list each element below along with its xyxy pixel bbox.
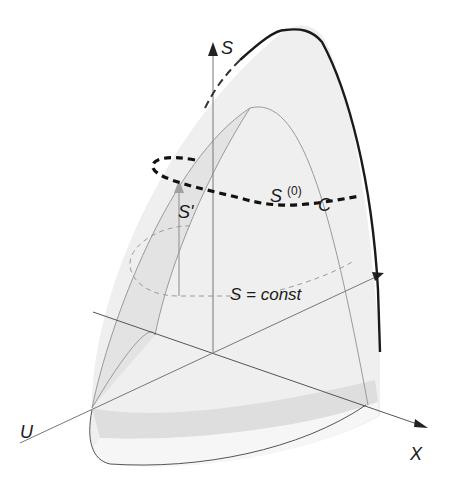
s-axis-label: S <box>221 38 233 58</box>
diagram-canvas: S U X S' S (0) C S = const <box>0 0 454 480</box>
surface-diagram: S U X S' S (0) C S = const <box>0 0 454 480</box>
s-const-label: S = const <box>230 285 303 304</box>
s0-label-superscript: (0) <box>287 184 302 198</box>
curve-c-label: C <box>318 195 332 215</box>
u-axis-label: U <box>20 422 34 442</box>
x-axis-label: X <box>409 444 423 464</box>
s-axis-arrowhead <box>208 42 218 56</box>
s-prime-label: S' <box>178 202 194 222</box>
s0-label-base: S <box>270 186 282 206</box>
x-axis-arrowhead <box>414 419 428 428</box>
